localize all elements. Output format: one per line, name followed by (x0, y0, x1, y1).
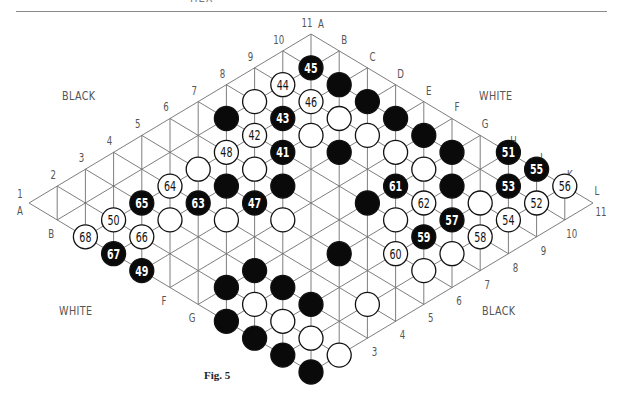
black-stone (355, 90, 379, 114)
edge-label-number: 7 (484, 277, 490, 291)
move-number: 61 (389, 178, 402, 194)
black-stone (271, 174, 295, 198)
white-stone: 44 (271, 73, 295, 97)
black-stone (243, 326, 267, 350)
move-number: 44 (277, 77, 289, 93)
black-stone: 61 (384, 174, 408, 198)
black-stone: 55 (525, 157, 549, 181)
white-stone (384, 208, 408, 232)
black-stone: 57 (440, 208, 464, 232)
edge-label-letter: B (341, 32, 347, 46)
side-label-bottom-left: WHITE (59, 304, 92, 318)
edge-label-number: 6 (163, 100, 169, 114)
edge-label-letter: A (17, 204, 24, 218)
move-number: 65 (135, 195, 148, 211)
side-label-top-right: WHITE (479, 89, 512, 103)
edge-label-number: 9 (541, 243, 547, 257)
hex-board: 1234567891011ABCDEFGHJKLABFG34567891011 … (0, 0, 617, 402)
move-number: 67 (107, 246, 120, 262)
edge-label-letter: L (595, 184, 600, 198)
white-stone (412, 259, 436, 283)
move-number: 53 (502, 178, 515, 194)
edge-label-letter: F (162, 294, 167, 308)
black-stone (214, 309, 238, 333)
edge-label-number: 6 (456, 294, 462, 308)
white-stone (271, 309, 295, 333)
edge-label-number: 5 (135, 117, 141, 131)
black-stone (412, 123, 436, 147)
board-grid (29, 34, 593, 372)
black-stone: 51 (496, 140, 520, 164)
move-number: 45 (304, 60, 317, 76)
white-stone: 48 (214, 140, 238, 164)
edge-label-letter: F (455, 100, 460, 114)
white-stone (412, 157, 436, 181)
edge-label-number: 8 (220, 66, 226, 80)
white-stone (243, 90, 267, 114)
move-number: 47 (248, 195, 261, 211)
move-number: 59 (417, 229, 430, 245)
black-stone: 65 (130, 191, 154, 215)
black-stone (327, 140, 351, 164)
white-stone (243, 292, 267, 316)
side-label-bottom-right: BLACK (482, 304, 516, 318)
edge-label-number: 3 (372, 345, 378, 359)
black-stone (271, 343, 295, 367)
edge-label-number: 2 (50, 168, 56, 182)
white-stone: 66 (130, 225, 154, 249)
move-number: 56 (559, 178, 571, 194)
edge-label-letter: B (48, 226, 54, 240)
side-label-top-left: BLACK (62, 89, 96, 103)
move-number: 62 (418, 195, 430, 211)
black-stone: 45 (299, 56, 323, 80)
edge-label-letter: E (426, 83, 431, 97)
black-stone (327, 73, 351, 97)
move-number: 49 (135, 263, 148, 279)
white-stone (299, 326, 323, 350)
move-number: 60 (390, 246, 402, 262)
move-number: 42 (249, 128, 261, 144)
move-number: 63 (192, 195, 205, 211)
black-stone (440, 140, 464, 164)
white-stone: 60 (384, 242, 408, 266)
white-stone: 56 (553, 174, 577, 198)
white-stone (271, 208, 295, 232)
black-stone (214, 276, 238, 300)
edge-label-letter: C (369, 49, 375, 63)
white-stone: 54 (496, 208, 520, 232)
move-number: 57 (445, 212, 458, 228)
board-stones: 4544465155565253545857596062614143424863… (73, 56, 576, 384)
black-stone: 43 (271, 107, 295, 131)
white-stone (299, 123, 323, 147)
edge-label-number: 10 (273, 32, 284, 46)
black-stone: 49 (130, 259, 154, 283)
edge-label-number: 1 (17, 187, 23, 201)
black-stone (271, 276, 295, 300)
figure-caption: Fig. 5 (204, 369, 230, 381)
black-stone (355, 191, 379, 215)
white-stone: 62 (412, 191, 436, 215)
black-stone (214, 174, 238, 198)
black-stone (299, 292, 323, 316)
white-stone (468, 191, 492, 215)
black-stone (299, 360, 323, 384)
white-stone (186, 157, 210, 181)
edge-label-letter: A (318, 17, 325, 31)
white-stone: 46 (299, 90, 323, 114)
white-stone (440, 242, 464, 266)
move-number: 66 (136, 229, 148, 245)
black-stone: 63 (186, 191, 210, 215)
edge-label-letter: D (397, 66, 404, 80)
edge-label-number: 11 (302, 16, 313, 30)
move-number: 51 (502, 144, 515, 160)
edge-label-letter: G (189, 311, 196, 325)
edge-label-number: 8 (513, 260, 519, 274)
edge-label-number: 10 (566, 226, 577, 240)
black-stone (214, 107, 238, 131)
white-stone: 52 (525, 191, 549, 215)
black-stone (327, 242, 351, 266)
black-stone (384, 107, 408, 131)
black-stone: 59 (412, 225, 436, 249)
black-stone (243, 259, 267, 283)
white-stone (243, 157, 267, 181)
